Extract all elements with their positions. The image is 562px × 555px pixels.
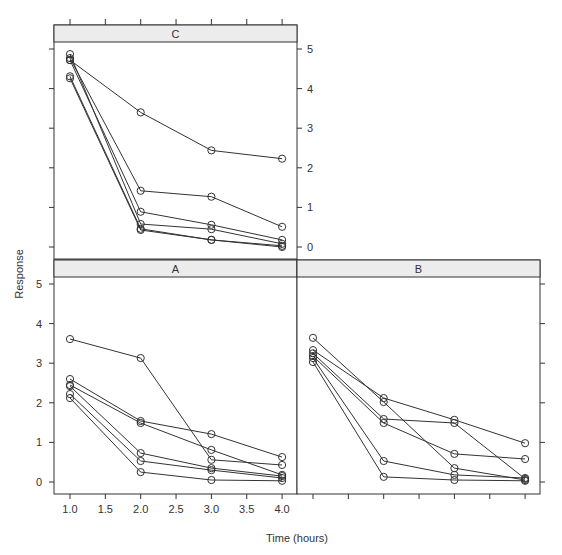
strip-label: B [415, 263, 422, 275]
x-tick-label: 4.0 [274, 503, 289, 515]
y-tick-label: 4 [307, 83, 313, 95]
y-tick-label: 4 [36, 318, 42, 330]
y-axis-title: Response [13, 249, 25, 299]
y-tick-label: 0 [307, 241, 313, 253]
x-tick-label: 2.5 [168, 503, 183, 515]
y-tick-label: 2 [36, 397, 42, 409]
lattice-line-chart: CAB0123450123451.01.52.02.53.03.54.0Time… [0, 0, 562, 555]
strip-label: A [172, 263, 180, 275]
y-tick-label: 2 [307, 162, 313, 174]
x-tick-label: 3.0 [204, 503, 219, 515]
y-tick-label: 3 [36, 357, 42, 369]
x-axis-title: Time (hours) [266, 532, 328, 544]
x-tick-label: 1.0 [62, 503, 77, 515]
strip-label: C [172, 28, 180, 40]
y-tick-label: 5 [307, 43, 313, 55]
panel-a: A [54, 260, 297, 494]
y-tick-label: 1 [307, 201, 313, 213]
y-tick-label: 1 [36, 436, 42, 448]
x-tick-label: 3.5 [239, 503, 254, 515]
x-tick-label: 1.5 [98, 503, 113, 515]
y-tick-label: 5 [36, 278, 42, 290]
panel-c: C [54, 25, 297, 259]
x-tick-label: 2.0 [133, 503, 148, 515]
panel-b: B [297, 260, 540, 494]
y-tick-label: 3 [307, 122, 313, 134]
y-tick-label: 0 [36, 476, 42, 488]
